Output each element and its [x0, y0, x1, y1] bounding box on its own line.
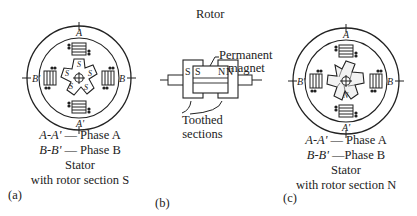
- legend-key: A-A': [39, 128, 61, 142]
- coil-pole-b: [370, 69, 383, 92]
- pole-label-b: B: [387, 76, 393, 87]
- caption-line1: Stator: [296, 163, 396, 178]
- legend-sep: —: [327, 133, 346, 147]
- legend-sep: —: [61, 128, 80, 142]
- caption-line1: Stator: [30, 158, 130, 173]
- pole-label-b-prime: B': [32, 73, 41, 84]
- coil-pole-b: [102, 66, 115, 89]
- legend-key: B-B': [39, 143, 61, 157]
- legend-sep: —: [61, 143, 80, 157]
- coil-pole-a: [67, 43, 90, 56]
- legend-row-phase-a: A-A' — Phase A: [296, 133, 396, 148]
- rotor-tooth-label: S: [88, 69, 92, 78]
- panel-a-tag: (a): [8, 188, 22, 203]
- rotor-tooth-label: N: [342, 91, 349, 100]
- rotor-tooth-label: S: [65, 69, 69, 78]
- panel-c-stator: N A A' B' B: [288, 24, 404, 138]
- coil-pole-a: [334, 45, 357, 58]
- toothed-sections-label: Toothed sections: [182, 113, 223, 141]
- panel-a-legend: A-A' — Phase A B-B' — Phase B Stator wit…: [30, 128, 130, 188]
- legend-key: A-A': [305, 133, 327, 147]
- coil-pole-b-prime: [44, 66, 57, 89]
- toothed-label-line2: sections: [182, 127, 223, 141]
- panel-c-tag: (c): [283, 191, 297, 206]
- legend-key: B-B': [307, 148, 329, 162]
- coil-pole-a-prime: [334, 105, 357, 118]
- legend-value: Phase A: [80, 128, 121, 142]
- pole-label-b-prime: B': [297, 76, 306, 87]
- legend-value: Phase B: [345, 148, 386, 162]
- pole-letter-s-outer: S: [185, 66, 191, 77]
- legend-value: Phase B: [80, 143, 121, 157]
- legend-value: Phase A: [346, 133, 387, 147]
- rotor-tooth-label: S: [69, 82, 73, 91]
- pole-label-a: A: [342, 29, 350, 40]
- magnet-label-line2: magnet: [219, 62, 272, 75]
- pole-letter-s-inner: S: [195, 66, 201, 77]
- panel-c-legend: A-A' — Phase A B-B' —Phase B Stator with…: [296, 133, 396, 193]
- legend-sep: —: [329, 148, 345, 162]
- panel-a-stator: S S S S S A A' B' B: [22, 22, 136, 134]
- rotor-tooth-label: S: [84, 83, 88, 92]
- legend-row-phase-b: B-B' —Phase B: [296, 148, 396, 163]
- coil-pole-a-prime: [67, 101, 90, 114]
- panel-b-tag: (b): [155, 196, 170, 211]
- pole-label-b: B: [119, 73, 125, 84]
- toothed-label-line1: Toothed: [182, 113, 223, 127]
- pole-label-a: A: [75, 27, 83, 38]
- rotor-tooth-label: S: [77, 60, 81, 69]
- caption-line2: with rotor section N: [296, 178, 396, 193]
- pole-label-a-prime: A': [341, 122, 351, 133]
- coil-pole-b-prime: [310, 69, 323, 92]
- legend-row-phase-b: B-B' — Phase B: [30, 143, 130, 158]
- legend-row-phase-a: A-A' — Phase A: [30, 128, 130, 143]
- caption-line2: with rotor section S: [30, 173, 130, 188]
- magnet-label: Permanent magnet: [219, 49, 272, 75]
- rotor-title: Rotor: [196, 7, 224, 22]
- shaft-left: [168, 75, 184, 85]
